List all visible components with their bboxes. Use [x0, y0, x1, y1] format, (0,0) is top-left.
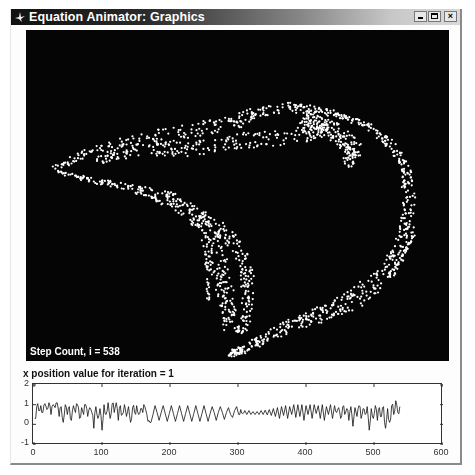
x-tick-label: 500 [358, 447, 388, 457]
y-tick-label: 1 [15, 398, 29, 408]
x-position-axes[interactable] [32, 383, 442, 444]
maximize-button[interactable] [428, 11, 441, 22]
x-tick-label: 0 [18, 447, 48, 457]
window-title: Equation Animator: Graphics [29, 10, 205, 24]
x-tick-label: 300 [222, 447, 252, 457]
attractor-canvas [26, 30, 449, 361]
x-tick-label: 100 [86, 447, 116, 457]
subplot-title: x position value for iteration = 1 [23, 368, 174, 379]
y-tick-label: 0 [15, 417, 29, 427]
graphics-window: Equation Animator: Graphics × Step Count… [10, 9, 462, 465]
window-controls: × [414, 11, 457, 22]
step-count-label: Step Count, i = 538 [30, 346, 120, 357]
y-tick-label: -1 [15, 437, 29, 447]
app-icon [14, 11, 26, 23]
y-tick-label: 2 [15, 378, 29, 388]
x-position-series-line [35, 401, 400, 431]
x-tick-label: 600 [426, 447, 456, 457]
attractor-plot[interactable]: Step Count, i = 538 [26, 30, 449, 361]
x-position-line-chart [33, 384, 443, 445]
minimize-button[interactable] [414, 11, 427, 22]
title-bar[interactable]: Equation Animator: Graphics × [11, 9, 460, 25]
x-tick-label: 400 [290, 447, 320, 457]
close-button[interactable]: × [444, 11, 457, 22]
x-tick-label: 200 [154, 447, 184, 457]
